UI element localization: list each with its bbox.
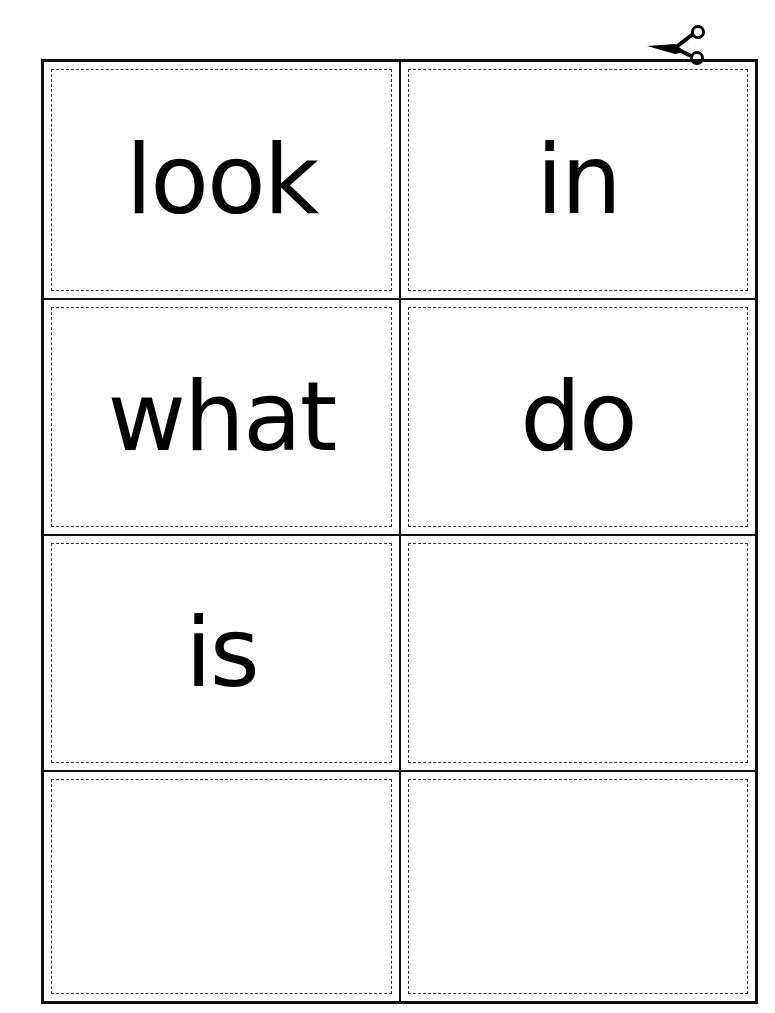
card-word: in xyxy=(536,132,620,228)
card-grid: look in what do is xyxy=(44,62,755,1001)
card-is: is xyxy=(44,535,400,771)
card-look: look xyxy=(44,62,400,299)
cut-line xyxy=(51,779,392,994)
cut-line: in xyxy=(408,69,748,291)
cut-line: do xyxy=(408,307,748,527)
flashcard-sheet: look in what do is xyxy=(41,59,758,1004)
card-in: in xyxy=(400,62,755,299)
cut-line xyxy=(408,543,748,763)
card-do: do xyxy=(400,299,755,535)
card-blank xyxy=(44,771,400,1001)
cut-line: is xyxy=(51,543,392,763)
cut-line: what xyxy=(51,307,392,527)
cut-line xyxy=(408,779,748,994)
card-blank xyxy=(400,535,755,771)
card-word: what xyxy=(108,369,336,465)
card-word: is xyxy=(185,605,258,701)
card-what: what xyxy=(44,299,400,535)
cut-line: look xyxy=(51,69,392,291)
card-blank xyxy=(400,771,755,1001)
card-word: look xyxy=(126,132,318,228)
card-word: do xyxy=(520,369,636,465)
